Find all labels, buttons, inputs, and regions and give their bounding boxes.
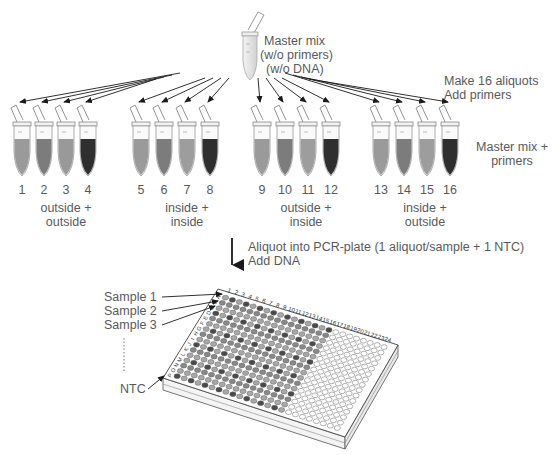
well-B18 <box>336 337 342 342</box>
well-H4 <box>221 339 227 344</box>
aliquot-step-label: Make 16 aliquots Add primers <box>444 74 539 102</box>
tube-7 <box>176 105 196 176</box>
well-D15 <box>309 341 315 346</box>
well-A6 <box>257 306 263 311</box>
well-E22 <box>355 362 361 367</box>
well-D22 <box>358 357 364 362</box>
well-L19 <box>312 393 318 398</box>
well-A20 <box>353 336 359 341</box>
well-G10 <box>265 346 271 351</box>
well-A14 <box>312 323 318 328</box>
well-C22 <box>361 351 367 356</box>
well-O4 <box>198 375 204 380</box>
well-A1 <box>222 295 228 300</box>
well-A8 <box>271 310 277 315</box>
well-O13 <box>261 396 267 401</box>
well-N7 <box>222 377 228 382</box>
sample-2-label: Sample 2 <box>104 304 157 318</box>
well-E24 <box>368 366 374 371</box>
well-M13 <box>267 385 273 390</box>
master-mix-label: Master mix (w/o primers) (w/o DNA) <box>264 34 333 76</box>
tube-14 <box>393 105 413 176</box>
well-H23 <box>352 380 358 385</box>
well-B17 <box>330 335 336 340</box>
well-I23 <box>349 386 355 391</box>
tube-8 <box>199 105 219 176</box>
well-B21 <box>357 344 363 349</box>
well-A23 <box>374 343 380 348</box>
well-N11 <box>250 386 256 391</box>
distribution-arrows <box>20 73 448 102</box>
well-C10 <box>278 325 284 330</box>
well-I9 <box>252 355 258 360</box>
well-C6 <box>251 317 257 322</box>
well-F14 <box>296 350 302 355</box>
well-G23 <box>355 375 361 380</box>
well-P9 <box>230 392 236 397</box>
group-label-1: outside +outside <box>21 201 111 229</box>
tube-1 <box>11 105 31 176</box>
well-A16 <box>326 328 332 333</box>
well-H9 <box>255 350 261 355</box>
well-N18 <box>299 401 305 406</box>
well-D16 <box>316 344 322 349</box>
well-F5 <box>234 330 240 335</box>
well-M8 <box>232 374 238 379</box>
well-P10 <box>237 394 243 399</box>
well-M10 <box>246 378 252 383</box>
well-K24 <box>350 399 356 404</box>
well-N6 <box>215 375 221 380</box>
well-P21 <box>313 419 319 424</box>
well-N13 <box>264 390 270 395</box>
tube-9 <box>251 105 271 176</box>
well-M16 <box>288 392 294 397</box>
well-K12 <box>267 372 273 377</box>
well-E8 <box>258 332 264 337</box>
tube-3 <box>55 105 75 176</box>
well-H12 <box>276 356 282 361</box>
well-M2 <box>191 360 197 365</box>
well-E5 <box>237 325 243 330</box>
well-L17 <box>298 388 304 393</box>
plate-step-line2: Add DNA <box>248 254 524 268</box>
well-J5 <box>221 351 227 356</box>
well-K14 <box>280 376 286 381</box>
well-A10 <box>284 315 290 320</box>
well-L15 <box>284 384 290 389</box>
well-O19 <box>303 409 309 414</box>
well-F9 <box>262 339 268 344</box>
well-K16 <box>294 381 300 386</box>
well-B11 <box>288 322 294 327</box>
well-E9 <box>265 334 271 339</box>
well-L23 <box>340 402 346 407</box>
well-L18 <box>305 391 311 396</box>
well-A5 <box>250 304 256 309</box>
well-L2 <box>194 355 200 360</box>
well-O12 <box>254 393 260 398</box>
well-F8 <box>255 337 261 342</box>
well-G12 <box>279 351 285 356</box>
well-K21 <box>329 392 335 397</box>
well-P15 <box>272 405 278 410</box>
well-J13 <box>277 369 283 374</box>
well-F21 <box>345 365 351 370</box>
well-H18 <box>318 369 324 374</box>
well-O6 <box>212 380 218 385</box>
well-E7 <box>251 329 257 334</box>
well-J15 <box>291 373 297 378</box>
well-A7 <box>264 308 270 313</box>
well-F10 <box>269 341 275 346</box>
well-N23 <box>334 413 340 418</box>
well-J23 <box>346 391 352 396</box>
tube-number-3: 3 <box>56 183 76 197</box>
well-L16 <box>291 386 297 391</box>
well-K3 <box>204 352 210 357</box>
tubes-content-line2: primers <box>467 154 557 168</box>
well-N16 <box>285 397 291 402</box>
well-I2 <box>204 339 210 344</box>
well-L22 <box>333 400 339 405</box>
well-B19 <box>343 339 349 344</box>
tube-10 <box>274 105 294 176</box>
well-I16 <box>301 370 307 375</box>
well-H3 <box>214 336 220 341</box>
